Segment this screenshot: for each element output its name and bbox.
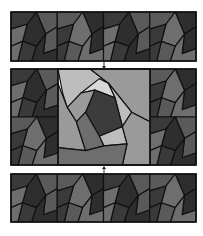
- tessellation-diagram: [0, 0, 203, 236]
- top-strip: [11, 12, 196, 61]
- arrow-up-icon: [102, 166, 106, 169]
- center-piece: [122, 112, 150, 165]
- bottom-strip: [11, 174, 196, 222]
- middle-strip: [11, 69, 196, 165]
